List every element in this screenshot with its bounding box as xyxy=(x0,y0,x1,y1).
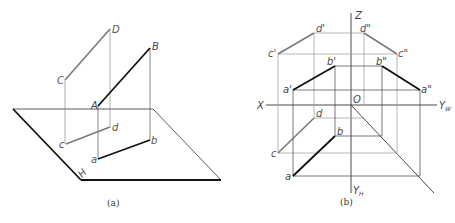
plane-left-edge xyxy=(13,109,81,180)
label-b-prime: b' xyxy=(327,56,336,67)
label-c-prime: c' xyxy=(268,48,276,59)
line-AB xyxy=(98,48,150,106)
projection-diagram: D B C A d c b a H (a) xyxy=(0,0,455,223)
line-ab xyxy=(98,140,150,159)
plane-right-edge xyxy=(153,109,221,180)
line-CD xyxy=(65,29,110,80)
line-cd-top xyxy=(278,118,314,153)
figure-b: Z X O YW YH d' c' b' a' d" c" b" a" d c … xyxy=(256,10,452,207)
label-b-top: b xyxy=(337,126,343,137)
label-Z: Z xyxy=(354,10,363,21)
label-A: A xyxy=(90,100,98,111)
line-ab-top xyxy=(293,136,335,176)
label-D: D xyxy=(112,24,120,35)
label-c-top: c xyxy=(271,148,277,159)
line-cd xyxy=(66,127,110,144)
label-O: O xyxy=(353,94,361,105)
label-C: C xyxy=(57,75,64,86)
label-b: b xyxy=(151,135,157,146)
label-d: d xyxy=(112,122,119,133)
line-c'd' xyxy=(278,33,314,54)
label-a-dprime: a" xyxy=(421,84,432,95)
label-c: c xyxy=(59,139,65,150)
figure-a: D B C A d c b a H (a) xyxy=(13,24,221,208)
label-X: X xyxy=(256,100,265,111)
line-a''b'' xyxy=(382,66,420,90)
caption-b: (b) xyxy=(340,197,353,207)
label-b-dprime: b" xyxy=(376,56,387,67)
label-c-dprime: c" xyxy=(398,48,408,59)
label-B: B xyxy=(152,41,159,52)
label-a: a xyxy=(91,154,97,165)
label-YH: YH xyxy=(353,185,364,197)
line-c''d'' xyxy=(364,33,397,54)
label-a-prime: a' xyxy=(283,84,292,95)
caption-a: (a) xyxy=(107,198,119,208)
label-d-prime: d' xyxy=(316,23,325,34)
label-YW: YW xyxy=(439,100,452,112)
label-d-dprime: d" xyxy=(360,23,371,34)
label-d-top: d xyxy=(316,108,323,119)
label-a-top: a xyxy=(285,171,291,182)
